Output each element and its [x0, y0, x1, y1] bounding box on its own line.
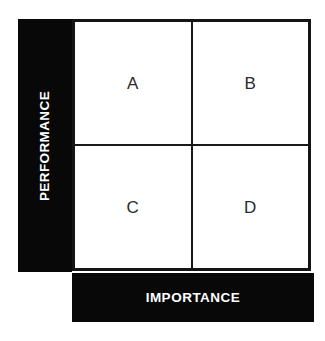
- importance-axis-bar: IMPORTANCE: [72, 273, 314, 322]
- quadrant-c[interactable]: C: [75, 145, 192, 268]
- quadrant-b-label: B: [245, 75, 256, 92]
- importance-performance-matrix: PERFORMANCE IMPORTANCE A B C D: [0, 0, 325, 341]
- quadrant-c-label: C: [127, 199, 139, 216]
- importance-axis-label: IMPORTANCE: [72, 273, 314, 322]
- quadrant-b[interactable]: B: [192, 22, 309, 145]
- performance-axis-label: PERFORMANCE: [38, 90, 52, 200]
- matrix-grid: A B C D: [72, 19, 311, 271]
- quadrant-a[interactable]: A: [75, 22, 192, 145]
- quadrant-d[interactable]: D: [192, 145, 309, 268]
- quadrant-d-label: D: [244, 199, 256, 216]
- quadrant-a-label: A: [127, 75, 138, 92]
- performance-axis-bar: PERFORMANCE: [18, 19, 72, 272]
